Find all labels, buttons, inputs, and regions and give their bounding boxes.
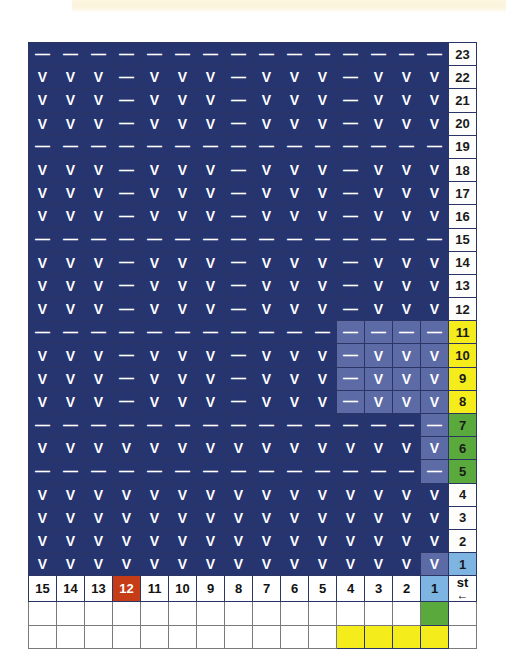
knit-stitch-cell[interactable]: V <box>337 529 365 552</box>
purl-stitch-cell[interactable]: — <box>29 414 57 437</box>
knit-stitch-cell[interactable]: V <box>421 529 449 552</box>
purl-stitch-cell[interactable]: — <box>281 321 309 344</box>
purl-stitch-cell[interactable]: — <box>225 66 253 89</box>
stitch-number-cell[interactable]: 9 <box>197 576 225 602</box>
knit-stitch-cell[interactable]: V <box>29 344 57 367</box>
knit-stitch-cell[interactable]: V <box>57 205 85 228</box>
purl-stitch-cell[interactable]: — <box>113 89 141 112</box>
purl-stitch-cell[interactable]: — <box>169 43 197 66</box>
knit-stitch-cell[interactable]: V <box>29 483 57 506</box>
knit-stitch-cell[interactable]: V <box>57 437 85 460</box>
knit-stitch-cell[interactable]: V <box>141 66 169 89</box>
knit-stitch-cell[interactable]: V <box>421 89 449 112</box>
purl-stitch-cell[interactable]: — <box>337 344 365 367</box>
knit-stitch-cell[interactable]: V <box>141 506 169 529</box>
knit-stitch-cell[interactable]: V <box>29 274 57 297</box>
purl-stitch-cell[interactable]: — <box>253 414 281 437</box>
knit-stitch-cell[interactable]: V <box>281 89 309 112</box>
purl-stitch-cell[interactable]: — <box>141 228 169 251</box>
knit-stitch-cell[interactable]: V <box>365 367 393 390</box>
knit-stitch-cell[interactable]: V <box>169 158 197 181</box>
knit-stitch-cell[interactable]: V <box>169 89 197 112</box>
stitch-number-cell[interactable]: 13 <box>85 576 113 602</box>
purl-stitch-cell[interactable]: — <box>337 112 365 135</box>
purl-stitch-cell[interactable]: — <box>393 321 421 344</box>
knit-stitch-cell[interactable]: V <box>113 437 141 460</box>
knit-stitch-cell[interactable]: V <box>197 158 225 181</box>
purl-stitch-cell[interactable]: — <box>225 390 253 413</box>
knit-stitch-cell[interactable]: V <box>393 506 421 529</box>
knit-stitch-cell[interactable]: V <box>57 390 85 413</box>
knit-stitch-cell[interactable]: V <box>421 344 449 367</box>
stitch-number-cell[interactable]: 8 <box>225 576 253 602</box>
knit-stitch-cell[interactable]: V <box>365 483 393 506</box>
knit-stitch-cell[interactable]: V <box>393 158 421 181</box>
knit-stitch-cell[interactable]: V <box>141 390 169 413</box>
stitch-number-cell[interactable]: 11 <box>141 576 169 602</box>
knit-stitch-cell[interactable]: V <box>85 390 113 413</box>
knit-stitch-cell[interactable]: V <box>197 390 225 413</box>
knit-stitch-cell[interactable]: V <box>197 112 225 135</box>
purl-stitch-cell[interactable]: — <box>365 43 393 66</box>
knit-stitch-cell[interactable]: V <box>281 344 309 367</box>
knit-stitch-cell[interactable]: V <box>29 506 57 529</box>
knit-stitch-cell[interactable]: V <box>197 437 225 460</box>
knit-stitch-cell[interactable]: V <box>281 112 309 135</box>
knit-stitch-cell[interactable]: V <box>29 298 57 321</box>
purl-stitch-cell[interactable]: — <box>365 321 393 344</box>
knit-stitch-cell[interactable]: V <box>365 437 393 460</box>
purl-stitch-cell[interactable]: — <box>113 414 141 437</box>
purl-stitch-cell[interactable]: — <box>197 135 225 158</box>
purl-stitch-cell[interactable]: — <box>393 414 421 437</box>
purl-stitch-cell[interactable]: — <box>225 414 253 437</box>
purl-stitch-cell[interactable]: — <box>85 43 113 66</box>
purl-stitch-cell[interactable]: — <box>225 298 253 321</box>
knit-stitch-cell[interactable]: V <box>421 437 449 460</box>
knit-stitch-cell[interactable]: V <box>141 298 169 321</box>
knit-stitch-cell[interactable]: V <box>29 112 57 135</box>
purl-stitch-cell[interactable]: — <box>225 274 253 297</box>
purl-stitch-cell[interactable]: — <box>57 460 85 483</box>
knit-stitch-cell[interactable]: V <box>85 506 113 529</box>
knit-stitch-cell[interactable]: V <box>253 298 281 321</box>
knit-stitch-cell[interactable]: V <box>57 553 85 576</box>
knit-stitch-cell[interactable]: V <box>169 251 197 274</box>
knit-stitch-cell[interactable]: V <box>85 274 113 297</box>
knit-stitch-cell[interactable]: V <box>309 529 337 552</box>
purl-stitch-cell[interactable]: — <box>337 460 365 483</box>
purl-stitch-cell[interactable]: — <box>421 228 449 251</box>
purl-stitch-cell[interactable]: — <box>197 414 225 437</box>
purl-stitch-cell[interactable]: — <box>337 158 365 181</box>
purl-stitch-cell[interactable]: — <box>253 321 281 344</box>
legend-empty-cell[interactable] <box>309 602 337 625</box>
knit-stitch-cell[interactable]: V <box>337 437 365 460</box>
stitch-number-cell[interactable]: 7 <box>253 576 281 602</box>
knit-stitch-cell[interactable]: V <box>393 205 421 228</box>
legend-yellow-cell[interactable] <box>421 625 449 648</box>
purl-stitch-cell[interactable]: — <box>337 274 365 297</box>
purl-stitch-cell[interactable]: — <box>225 43 253 66</box>
purl-stitch-cell[interactable]: — <box>225 135 253 158</box>
purl-stitch-cell[interactable]: — <box>253 228 281 251</box>
knit-stitch-cell[interactable]: V <box>225 437 253 460</box>
purl-stitch-cell[interactable]: — <box>57 135 85 158</box>
knit-stitch-cell[interactable]: V <box>365 390 393 413</box>
knit-stitch-cell[interactable]: V <box>85 344 113 367</box>
purl-stitch-cell[interactable]: — <box>337 89 365 112</box>
knit-stitch-cell[interactable]: V <box>309 506 337 529</box>
purl-stitch-cell[interactable]: — <box>113 460 141 483</box>
stitch-number-cell[interactable]: 4 <box>337 576 365 602</box>
purl-stitch-cell[interactable]: — <box>393 228 421 251</box>
knit-stitch-cell[interactable]: V <box>141 251 169 274</box>
purl-stitch-cell[interactable]: — <box>225 251 253 274</box>
knit-stitch-cell[interactable]: V <box>197 506 225 529</box>
knit-stitch-cell[interactable]: V <box>393 89 421 112</box>
purl-stitch-cell[interactable]: — <box>281 228 309 251</box>
knit-stitch-cell[interactable]: V <box>281 483 309 506</box>
knit-stitch-cell[interactable]: V <box>85 66 113 89</box>
knit-stitch-cell[interactable]: V <box>309 483 337 506</box>
knit-stitch-cell[interactable]: V <box>141 367 169 390</box>
knit-stitch-cell[interactable]: V <box>365 112 393 135</box>
knit-stitch-cell[interactable]: V <box>281 158 309 181</box>
knit-stitch-cell[interactable]: V <box>281 182 309 205</box>
